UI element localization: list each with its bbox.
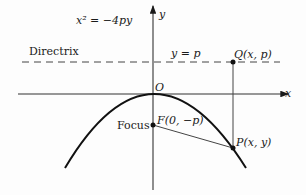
origin-label: O [155, 82, 164, 93]
y-axis-label: y [159, 9, 165, 20]
directrix-label: Directrix [29, 46, 79, 57]
parabola-diagram: x² = −4py Directrix y = p y x O Focus F(… [0, 0, 306, 195]
focus-point-label: F(0, −p) [157, 115, 203, 126]
f-to-p-segment [153, 125, 233, 148]
point-p-label: P(x, y) [236, 137, 271, 148]
diagram-graphics [0, 0, 306, 195]
point-p [231, 146, 236, 151]
directrix-equation-label: y = p [171, 48, 200, 59]
point-q-label: Q(x, p) [234, 49, 272, 60]
parabola-curve [65, 94, 246, 168]
x-axis-label: x [285, 88, 291, 99]
focus-word-label: Focus [117, 120, 150, 131]
equation-label: x² = −4py [76, 15, 132, 26]
point-focus [151, 123, 156, 128]
